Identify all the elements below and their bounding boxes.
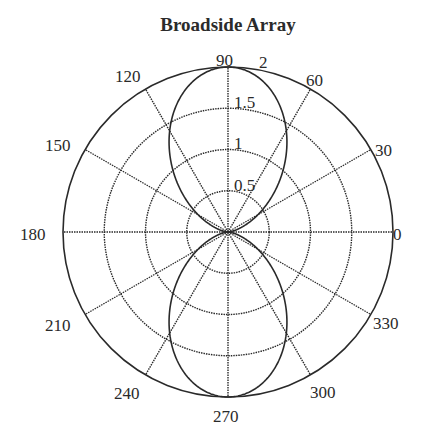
angle-label-300: 300: [310, 383, 336, 402]
angle-label-330: 330: [373, 314, 399, 333]
angle-label-240: 240: [114, 384, 140, 403]
radial-label-1.5: 1.5: [234, 93, 255, 112]
angle-label-90: 90: [216, 51, 233, 70]
angle-label-180: 180: [20, 225, 46, 244]
grid-spoke: [146, 89, 229, 232]
angle-label-0: 0: [393, 225, 402, 244]
radial-label-2: 2: [259, 53, 268, 72]
angle-label-120: 120: [115, 67, 141, 86]
radial-label-0.5: 0.5: [234, 176, 255, 195]
angle-label-30: 30: [375, 141, 392, 160]
angle-label-210: 210: [45, 316, 71, 335]
angle-label-270: 270: [213, 407, 239, 426]
grid-spoke: [146, 232, 229, 375]
radial-label-1: 1: [234, 134, 243, 153]
grid-spoke: [228, 232, 371, 315]
angle-label-150: 150: [45, 136, 71, 155]
grid-spoke: [85, 150, 228, 233]
polar-chart: 0 30 60 90 120 150 180 210 240 270 300 3…: [0, 0, 426, 445]
angle-label-60: 60: [306, 71, 323, 90]
grid-spoke: [228, 232, 311, 375]
